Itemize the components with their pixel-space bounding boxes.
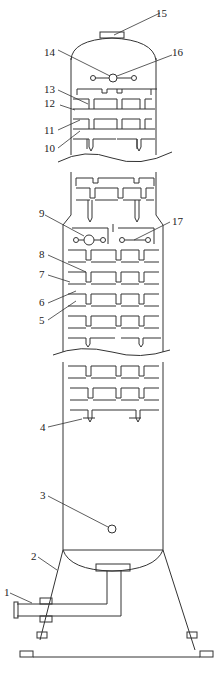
label-9: 9	[39, 208, 45, 219]
label-17: 17	[172, 216, 183, 227]
diagram-drawing	[0, 0, 219, 677]
label-14: 14	[44, 47, 55, 58]
label-7: 7	[39, 269, 45, 280]
label-16: 16	[172, 47, 183, 58]
break-line-lower	[53, 349, 170, 356]
label-8: 8	[39, 249, 45, 260]
label-13: 13	[44, 84, 55, 95]
break-line-upper	[58, 152, 172, 162]
label-11: 11	[44, 125, 55, 136]
label-1: 1	[4, 587, 10, 598]
label-5: 5	[39, 315, 45, 326]
label-12: 12	[44, 98, 55, 109]
top-nozzle	[100, 32, 124, 38]
lower-trays	[68, 250, 161, 347]
label-2: 2	[31, 551, 37, 562]
sight-port	[108, 525, 116, 533]
upper-trays	[73, 89, 157, 151]
middle-upper-trays	[76, 178, 154, 222]
label-6: 6	[39, 297, 45, 308]
reactor-column-diagram: 15 14 16 13 12 11 10 9 17 8 7 6 5 4 3 2 …	[0, 0, 219, 677]
label-15: 15	[156, 8, 167, 19]
label-3: 3	[40, 490, 46, 501]
distributor-hub	[109, 74, 117, 82]
top-head	[71, 38, 156, 60]
label-4: 4	[40, 422, 46, 433]
leader-lines	[10, 13, 172, 603]
bottom-trays	[68, 366, 159, 422]
label-10: 10	[44, 143, 55, 154]
